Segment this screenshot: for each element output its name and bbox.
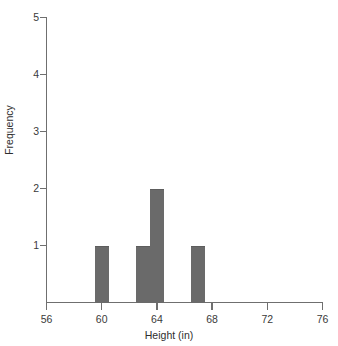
histogram-figure: 56606468727612345 Height (in) Frequency bbox=[0, 0, 338, 346]
histogram-bar bbox=[95, 246, 109, 303]
histogram-bar bbox=[136, 246, 150, 303]
histogram-bar bbox=[150, 189, 164, 303]
histogram-bar bbox=[191, 246, 205, 303]
x-axis-title: Height (in) bbox=[0, 329, 338, 341]
y-axis-title: Frequency bbox=[3, 90, 15, 170]
bars-layer bbox=[0, 0, 338, 346]
